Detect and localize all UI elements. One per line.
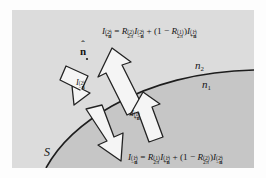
normal-vector-label: n	[80, 46, 86, 57]
equation-bottom: I(1)−n = R(1)2π I(1)+n + (1 − R(2)2π )I(…	[128, 153, 223, 162]
arrow-label-incident-medium-2: I(2)−n	[76, 79, 85, 87]
normal-vector-base-dot	[86, 58, 88, 60]
medium-2-label: n2	[195, 60, 204, 71]
equation-top: I(2)+n = R(2)2π I(2)−n + (1 − R(1)2π )I(…	[102, 27, 197, 36]
surface-label: S	[44, 146, 50, 158]
figure-container: I(2)+n = R(2)2π I(2)−n + (1 − R(1)2π )I(…	[0, 0, 266, 178]
medium-1-label: n1	[202, 79, 211, 90]
arrow-label-incident-medium-1: I(1)+n	[131, 110, 140, 118]
